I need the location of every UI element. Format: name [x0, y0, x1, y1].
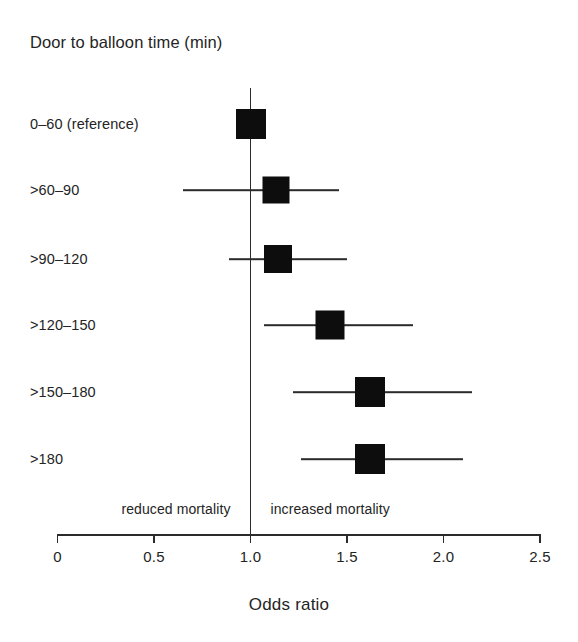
x-axis-tick-2 — [153, 534, 155, 543]
category-label-2: >60–90 — [30, 182, 79, 198]
category-label-4: >120–150 — [30, 317, 96, 333]
x-axis-tick-1 — [57, 534, 59, 543]
x-axis-line — [58, 534, 541, 536]
x-axis-tick-label-3: 1.0 — [240, 548, 261, 565]
x-axis-tick-label-6: 2.5 — [529, 548, 550, 565]
x-axis-tick-label-1: 0 — [53, 548, 62, 565]
forest-plot-figure: Door to balloon time (min) 0–60 (referen… — [0, 0, 578, 642]
point-marker-5 — [355, 377, 385, 407]
plot-area: 0–60 (reference)>60–90>90–120>120–150>15… — [0, 0, 578, 642]
point-marker-6 — [355, 444, 385, 474]
x-axis-tick-label-5: 2.0 — [433, 548, 454, 565]
category-label-6: >180 — [30, 451, 63, 467]
annotation-increased-mortality: increased mortality — [271, 501, 390, 517]
category-label-5: >150–180 — [30, 384, 96, 400]
reference-line-at-one — [250, 88, 252, 534]
x-axis-tick-5 — [443, 534, 445, 543]
x-axis-tick-label-4: 1.5 — [336, 548, 357, 565]
point-marker-3 — [264, 245, 292, 273]
point-marker-4 — [315, 311, 344, 340]
x-axis-title: Odds ratio — [0, 595, 578, 615]
x-axis-tick-3 — [250, 534, 252, 543]
annotation-reduced-mortality: reduced mortality — [121, 501, 230, 517]
point-marker-1 — [236, 109, 266, 139]
point-marker-2 — [262, 177, 289, 204]
category-label-1: 0–60 (reference) — [30, 116, 139, 132]
x-axis-tick-label-2: 0.5 — [143, 548, 164, 565]
x-axis-tick-4 — [346, 534, 348, 543]
category-label-3: >90–120 — [30, 251, 88, 267]
x-axis-tick-6 — [539, 534, 541, 543]
